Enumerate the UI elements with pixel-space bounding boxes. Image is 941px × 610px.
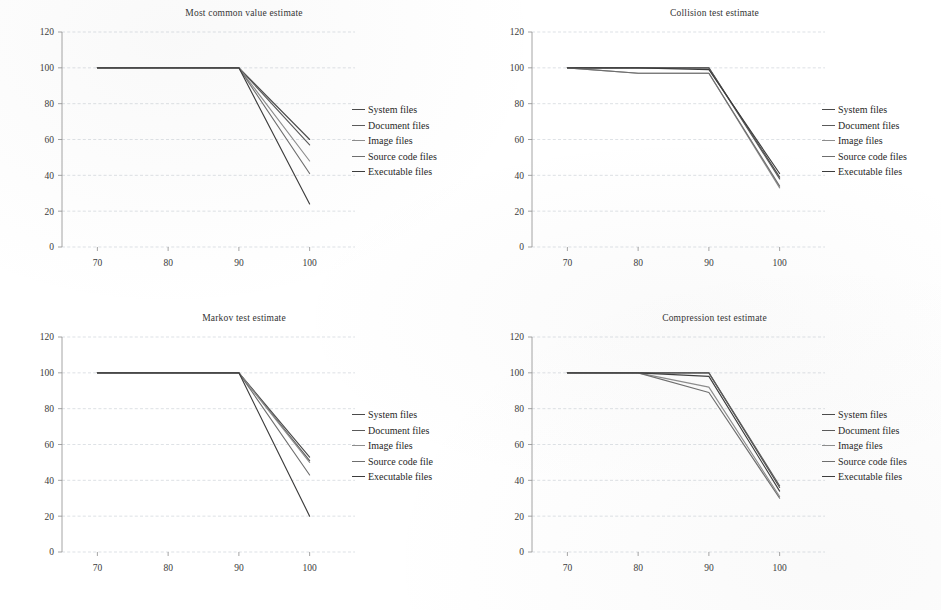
x-axis-tick-label: 70 — [563, 258, 573, 268]
legend-item-label: System files — [368, 102, 417, 118]
legend-item-label: Image files — [368, 438, 413, 454]
legend-item-label: Document files — [368, 118, 429, 134]
legend-item-label: Document files — [838, 423, 899, 439]
series-line-image-files — [97, 68, 309, 161]
legend-item-label: Image files — [368, 133, 413, 149]
series-line-document-files — [97, 68, 309, 145]
y-axis-tick-label: 0 — [49, 547, 54, 557]
legend-swatch-line-icon — [352, 125, 365, 126]
chart-legend: System filesDocument filesImage filesSou… — [822, 407, 907, 485]
legend-item-label: Source code files — [838, 149, 907, 165]
legend-item[interactable]: System files — [822, 407, 907, 423]
legend-item-label: Image files — [838, 133, 883, 149]
legend-swatch-line-icon — [822, 140, 835, 141]
legend-item[interactable]: Executable files — [822, 469, 907, 485]
legend-item-label: Source code files — [838, 454, 907, 470]
y-axis-tick-label: 0 — [519, 547, 524, 557]
y-axis-tick-label: 120 — [510, 27, 525, 37]
legend-item[interactable]: Executable files — [352, 164, 437, 180]
series-line-image-files — [97, 373, 309, 463]
legend-item[interactable]: Document files — [822, 423, 907, 439]
y-axis-tick-label: 0 — [519, 242, 524, 252]
legend-swatch-line-icon — [822, 476, 835, 477]
legend-swatch-line-icon — [352, 140, 365, 141]
y-axis-tick-label: 20 — [515, 207, 525, 217]
chart-grid: Most common value estimate 0204060801001… — [0, 0, 941, 610]
x-axis-tick-label: 100 — [303, 563, 318, 573]
legend-item-label: Executable files — [368, 469, 432, 485]
legend-swatch-line-icon — [822, 445, 835, 446]
legend-item-label: Executable files — [368, 164, 432, 180]
y-axis-tick-label: 80 — [515, 404, 525, 414]
legend-item-label: System files — [838, 102, 887, 118]
x-axis-tick-label: 80 — [163, 563, 173, 573]
legend-item-label: Executable files — [838, 469, 902, 485]
y-axis-tick-label: 40 — [515, 476, 525, 486]
chart-legend: System filesDocument filesImage filesSou… — [352, 102, 437, 180]
y-axis-tick-label: 100 — [40, 368, 55, 378]
y-axis-tick-label: 40 — [45, 171, 55, 181]
legend-item[interactable]: System files — [822, 102, 907, 118]
legend-item[interactable]: Source code file — [352, 454, 433, 470]
legend-item[interactable]: Executable files — [822, 164, 907, 180]
y-axis-tick-label: 60 — [45, 135, 55, 145]
legend-item[interactable]: Source code files — [822, 454, 907, 470]
legend-item[interactable]: Document files — [352, 423, 433, 439]
legend-item-label: System files — [368, 407, 417, 423]
x-axis-tick-label: 70 — [93, 563, 103, 573]
series-line-document-files — [567, 373, 779, 486]
legend-swatch-line-icon — [352, 461, 365, 462]
x-axis-tick-label: 90 — [234, 258, 244, 268]
series-line-system-files — [567, 373, 779, 488]
chart-panel-collision-test: Collision test estimate 0204060801001207… — [470, 0, 941, 305]
series-line-document-files — [97, 373, 309, 461]
y-axis-tick-label: 20 — [45, 207, 55, 217]
y-axis-tick-label: 20 — [45, 512, 55, 522]
legend-item[interactable]: Image files — [822, 438, 907, 454]
legend-item[interactable]: Source code files — [352, 149, 437, 165]
x-axis-tick-label: 80 — [633, 258, 643, 268]
legend-swatch-line-icon — [352, 109, 365, 110]
legend-item-label: Document files — [368, 423, 429, 439]
legend-item[interactable]: System files — [352, 407, 433, 423]
series-line-executable-files — [567, 373, 779, 491]
legend-swatch-line-icon — [822, 109, 835, 110]
series-line-executable-files — [567, 68, 779, 174]
legend-item-label: Source code files — [368, 149, 437, 165]
legend-item[interactable]: Image files — [352, 133, 437, 149]
y-axis-tick-label: 120 — [40, 332, 55, 342]
x-axis-tick-label: 70 — [563, 563, 573, 573]
x-axis-tick-label: 100 — [773, 563, 788, 573]
legend-swatch-line-icon — [822, 414, 835, 415]
legend-swatch-line-icon — [822, 430, 835, 431]
y-axis-tick-label: 80 — [45, 99, 55, 109]
chart-legend: System filesDocument filesImage filesSou… — [822, 102, 907, 180]
y-axis-tick-label: 40 — [45, 476, 55, 486]
legend-item[interactable]: System files — [352, 102, 437, 118]
y-axis-tick-label: 80 — [45, 404, 55, 414]
legend-swatch-line-icon — [822, 171, 835, 172]
legend-item[interactable]: Document files — [352, 118, 437, 134]
chart-panel-compression-test: Compression test estimate 02040608010012… — [470, 305, 941, 610]
y-axis-tick-label: 60 — [515, 135, 525, 145]
legend-swatch-line-icon — [822, 156, 835, 157]
series-line-source-code-files — [97, 68, 309, 174]
x-axis-tick-label: 90 — [234, 563, 244, 573]
y-axis-tick-label: 120 — [40, 27, 55, 37]
y-axis-tick-label: 60 — [45, 440, 55, 450]
x-axis-tick-label: 80 — [633, 563, 643, 573]
legend-item[interactable]: Image files — [352, 438, 433, 454]
legend-item[interactable]: Image files — [822, 133, 907, 149]
y-axis-tick-label: 120 — [510, 332, 525, 342]
x-axis-tick-label: 80 — [163, 258, 173, 268]
legend-item[interactable]: Executable files — [352, 469, 433, 485]
legend-item-label: Document files — [838, 118, 899, 134]
legend-item[interactable]: Source code files — [822, 149, 907, 165]
y-axis-tick-label: 80 — [515, 99, 525, 109]
x-axis-tick-label: 90 — [704, 563, 714, 573]
legend-item[interactable]: Document files — [822, 118, 907, 134]
y-axis-tick-label: 60 — [515, 440, 525, 450]
y-axis-tick-label: 100 — [510, 63, 525, 73]
legend-swatch-line-icon — [352, 476, 365, 477]
legend-swatch-line-icon — [352, 156, 365, 157]
